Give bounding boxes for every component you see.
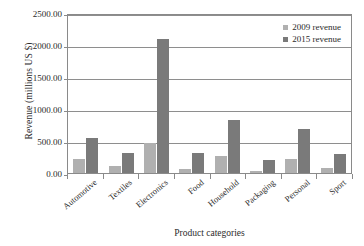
bar-automotive-2009 bbox=[73, 159, 85, 173]
y-axis-tick-label: 500.00 bbox=[16, 138, 62, 147]
bar-food-2015 bbox=[192, 153, 204, 173]
legend-item-2015: 2015 revenue bbox=[283, 34, 341, 44]
bar-textiles-2009 bbox=[109, 166, 121, 173]
chart-legend: 2009 revenue2015 revenue bbox=[281, 20, 343, 46]
x-axis-title: Product categories bbox=[67, 228, 352, 238]
bar-automotive-2015 bbox=[86, 138, 98, 173]
legend-label: 2015 revenue bbox=[292, 34, 341, 44]
bar-electronics-2009 bbox=[144, 143, 156, 173]
legend-swatch-icon bbox=[283, 25, 288, 30]
bar-chart: Revenue (millions US $) 2500.002000.0015… bbox=[0, 0, 364, 246]
bar-group-packaging bbox=[245, 15, 280, 173]
bar-sport-2009 bbox=[321, 168, 333, 173]
y-axis-tick-label: 1500.00 bbox=[16, 74, 62, 83]
bar-household-2015 bbox=[228, 120, 240, 173]
bar-group-household bbox=[210, 15, 245, 173]
y-axis-tick-label: 2500.00 bbox=[16, 10, 62, 19]
bar-group-food bbox=[174, 15, 209, 173]
legend-label: 2009 revenue bbox=[292, 22, 341, 32]
y-axis-tick-label: 1000.00 bbox=[16, 106, 62, 115]
plot-area: 2009 revenue2015 revenue bbox=[67, 14, 352, 174]
bar-personal-2015 bbox=[298, 129, 310, 173]
bar-sport-2015 bbox=[334, 154, 346, 173]
bar-packaging-2015 bbox=[263, 160, 275, 173]
y-axis-tick-label: 0.00 bbox=[16, 170, 62, 179]
bar-food-2009 bbox=[179, 169, 191, 173]
legend-item-2009: 2009 revenue bbox=[283, 22, 341, 32]
bar-electronics-2015 bbox=[157, 39, 169, 173]
x-axis-tick-labels: AutomotiveTextilesElectronicsFoodHouseho… bbox=[67, 178, 352, 224]
y-axis-tick-label: 2000.00 bbox=[16, 42, 62, 51]
bar-group-textiles bbox=[103, 15, 138, 173]
bar-packaging-2009 bbox=[250, 171, 262, 173]
bar-personal-2009 bbox=[285, 159, 297, 173]
legend-swatch-icon bbox=[283, 37, 288, 42]
bar-textiles-2015 bbox=[122, 153, 134, 173]
bar-group-electronics bbox=[139, 15, 174, 173]
x-axis-tick-mark bbox=[352, 174, 353, 179]
bar-group-automotive bbox=[68, 15, 103, 173]
bar-household-2009 bbox=[215, 156, 227, 173]
